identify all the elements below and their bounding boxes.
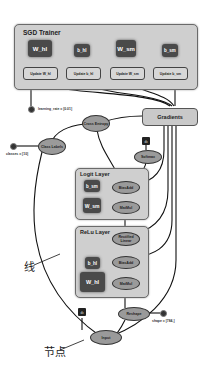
update-b-hl[interactable]: Update b_hl: [66, 67, 101, 80]
sgd-trainer-title: SGD Trainer: [23, 29, 61, 36]
learning-rate-constant-icon: [28, 106, 35, 113]
shape-constant-icon: [160, 310, 167, 317]
sgd-trainer-panel: SGD Trainer: [14, 24, 198, 90]
logit-matmul-node[interactable]: MatMul: [112, 201, 140, 214]
softmax-node[interactable]: Softmax: [134, 150, 162, 164]
reshape-node[interactable]: Reshape: [118, 307, 150, 321]
variable-w-hl-relu[interactable]: W_hl: [80, 272, 105, 292]
relu-matmul-node[interactable]: MatMul: [112, 277, 140, 290]
variable-b-sm-logit[interactable]: b_sm: [84, 180, 100, 192]
variable-w-hl[interactable]: W_hl: [28, 40, 52, 57]
summary-icon-input: ılı: [78, 308, 86, 316]
update-b-sm[interactable]: Update b_sm: [153, 67, 188, 80]
variable-b-sm[interactable]: b_sm: [162, 44, 178, 57]
cross-entropy-node[interactable]: Cross Entropy: [82, 115, 110, 132]
edge-annotation: 线: [24, 258, 35, 274]
shape-label: shape = [784,]: [152, 319, 175, 323]
update-w-sm[interactable]: Update W_sm: [110, 67, 145, 80]
variable-b-hl-relu[interactable]: b_hl: [85, 257, 100, 269]
variable-w-sm[interactable]: W_sm: [116, 40, 136, 57]
learning-rate-label: learning_rate = [0.01]: [38, 107, 72, 111]
classes-constant-icon: [10, 143, 17, 150]
update-w-hl[interactable]: Update W_hl: [23, 67, 58, 80]
input-node[interactable]: Input: [90, 330, 122, 345]
class-labels-node[interactable]: Class Labels: [38, 138, 66, 155]
rectified-linear-node[interactable]: Rectified Linear: [112, 232, 140, 246]
relu-layer-title: ReLu Layer: [80, 229, 110, 235]
gradients-node[interactable]: Gradients: [142, 108, 198, 126]
relu-biasadd-node[interactable]: BiasAdd: [112, 256, 140, 269]
variable-w-sm-logit[interactable]: W_sm: [83, 198, 101, 213]
node-annotation: 节点: [44, 343, 66, 359]
summary-icon-softmax: ılı: [142, 137, 150, 145]
classes-label: classes = [10]: [6, 152, 28, 156]
logit-layer-title: Logit Layer: [80, 171, 110, 177]
variable-b-hl[interactable]: b_hl: [74, 44, 90, 57]
logit-biasadd-node[interactable]: BiasAdd: [112, 181, 140, 194]
